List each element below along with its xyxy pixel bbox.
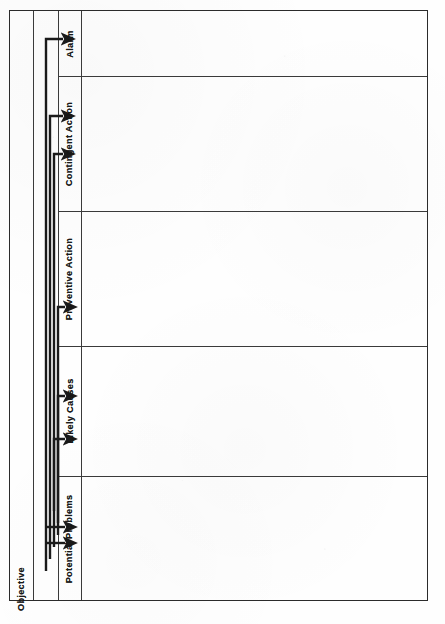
row-label-potential-problems: Potential Problems bbox=[58, 476, 81, 602]
content-cell-likely-causes[interactable] bbox=[81, 346, 427, 476]
worksheet-form-frame: Objective bbox=[9, 10, 428, 601]
row-label-likely-causes: Likely Causes bbox=[58, 346, 81, 476]
content-cell-preventive-action[interactable] bbox=[81, 211, 427, 346]
row-label-alarm: Alarm bbox=[58, 11, 81, 76]
scanned-worksheet-page: Objective bbox=[0, 0, 445, 624]
objective-column: Objective bbox=[10, 11, 33, 602]
row-label-preventive-action: Preventive Action bbox=[58, 211, 81, 346]
row-label-contingent-action: Contingent Action bbox=[58, 76, 81, 211]
content-cell-contingent-action[interactable] bbox=[81, 76, 427, 211]
content-cell-alarm[interactable] bbox=[81, 11, 427, 76]
row-labels-column: Alarm Contingent Action Preventive Actio… bbox=[58, 11, 81, 602]
content-cell-potential-problems[interactable] bbox=[81, 476, 427, 602]
objective-label: Objective bbox=[17, 567, 27, 611]
worksheet-content-area bbox=[81, 11, 427, 600]
